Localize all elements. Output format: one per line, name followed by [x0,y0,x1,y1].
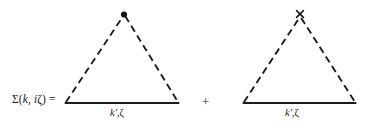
plus-operator: + [202,95,209,108]
cross-vertex-icon [297,11,304,18]
self-energy-lhs-label: Σ(k, iζ) = [12,94,56,106]
diagram-1-leg-label: k',ζ [110,107,124,118]
diagram-2-leg-frequency: ζ [295,107,299,118]
diagram-2-group [244,11,356,103]
lhs-sigma: Σ [12,93,19,105]
lhs-close-paren: ) [42,93,46,105]
diagram-2-leg-momentum: k' [285,107,292,118]
filled-dot-vertex-icon [121,11,127,17]
diagram-2-leg-label: k',ζ [285,107,299,118]
figure-canvas: Σ(k, iζ) = + k',ζ k',ζ [0,0,377,131]
diagram-1-right-dashed-leg [125,16,178,102]
diagram-2-left-dashed-leg [244,18,299,102]
diagram-1-group [66,11,179,103]
diagram-2-right-dashed-leg [301,18,355,102]
lhs-equals-sign: = [49,93,56,105]
diagram-1-leg-frequency: ζ [120,107,124,118]
diagram-1-leg-momentum: k' [110,107,117,118]
diagram-1-left-dashed-leg [66,16,123,102]
diagram-svg [0,0,377,131]
